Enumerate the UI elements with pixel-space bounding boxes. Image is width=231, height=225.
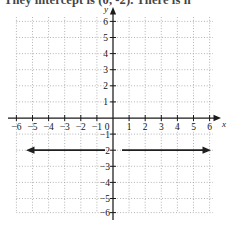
plot-line-right-ray — [122, 147, 211, 154]
svg-text:6: 6 — [103, 17, 108, 27]
svg-text:−5: −5 — [100, 194, 110, 204]
y-axis-label: y — [103, 4, 108, 14]
svg-text:−4: −4 — [44, 122, 54, 132]
svg-text:−3: −3 — [100, 162, 110, 172]
x-tick-labels-negative: −6 −5 −4 −3 −2 −1 — [11, 122, 102, 132]
svg-text:−3: −3 — [60, 122, 70, 132]
svg-text:−1: −1 — [100, 130, 110, 140]
x-tick-labels-positive: 1 2 3 4 5 6 — [127, 122, 213, 132]
svg-text:5: 5 — [103, 33, 108, 43]
svg-text:4: 4 — [175, 122, 180, 132]
svg-text:2: 2 — [143, 122, 148, 132]
svg-text:3: 3 — [103, 65, 108, 75]
svg-text:5: 5 — [191, 122, 196, 132]
figure-container: They intercept is (0, -2). There is n — [0, 0, 231, 225]
svg-text:−2: −2 — [76, 122, 86, 132]
svg-text:1: 1 — [103, 97, 108, 107]
svg-text:−6: −6 — [100, 208, 110, 218]
y-axis — [110, 7, 116, 220]
x-axis — [8, 115, 221, 121]
svg-text:3: 3 — [159, 122, 164, 132]
svg-text:−4: −4 — [100, 178, 110, 188]
svg-text:−6: −6 — [11, 122, 21, 132]
x-axis-label: x — [221, 119, 226, 129]
coordinate-plane-graph: y x −6 −5 −4 −3 −2 −1 0 1 2 3 4 5 6 — [0, 0, 231, 225]
y-tick-labels-positive: 6 5 4 3 2 1 — [103, 17, 108, 108]
svg-text:−2: −2 — [100, 146, 110, 156]
svg-text:−5: −5 — [27, 122, 37, 132]
plot-line-left-ray — [26, 147, 105, 154]
svg-text:2: 2 — [103, 81, 108, 91]
svg-text:4: 4 — [103, 49, 108, 59]
grid-lines — [16, 17, 213, 213]
svg-text:1: 1 — [127, 122, 132, 132]
y-tick-labels-negative: −1 −2 −3 −4 −5 −6 — [100, 130, 110, 219]
svg-text:6: 6 — [207, 122, 212, 132]
